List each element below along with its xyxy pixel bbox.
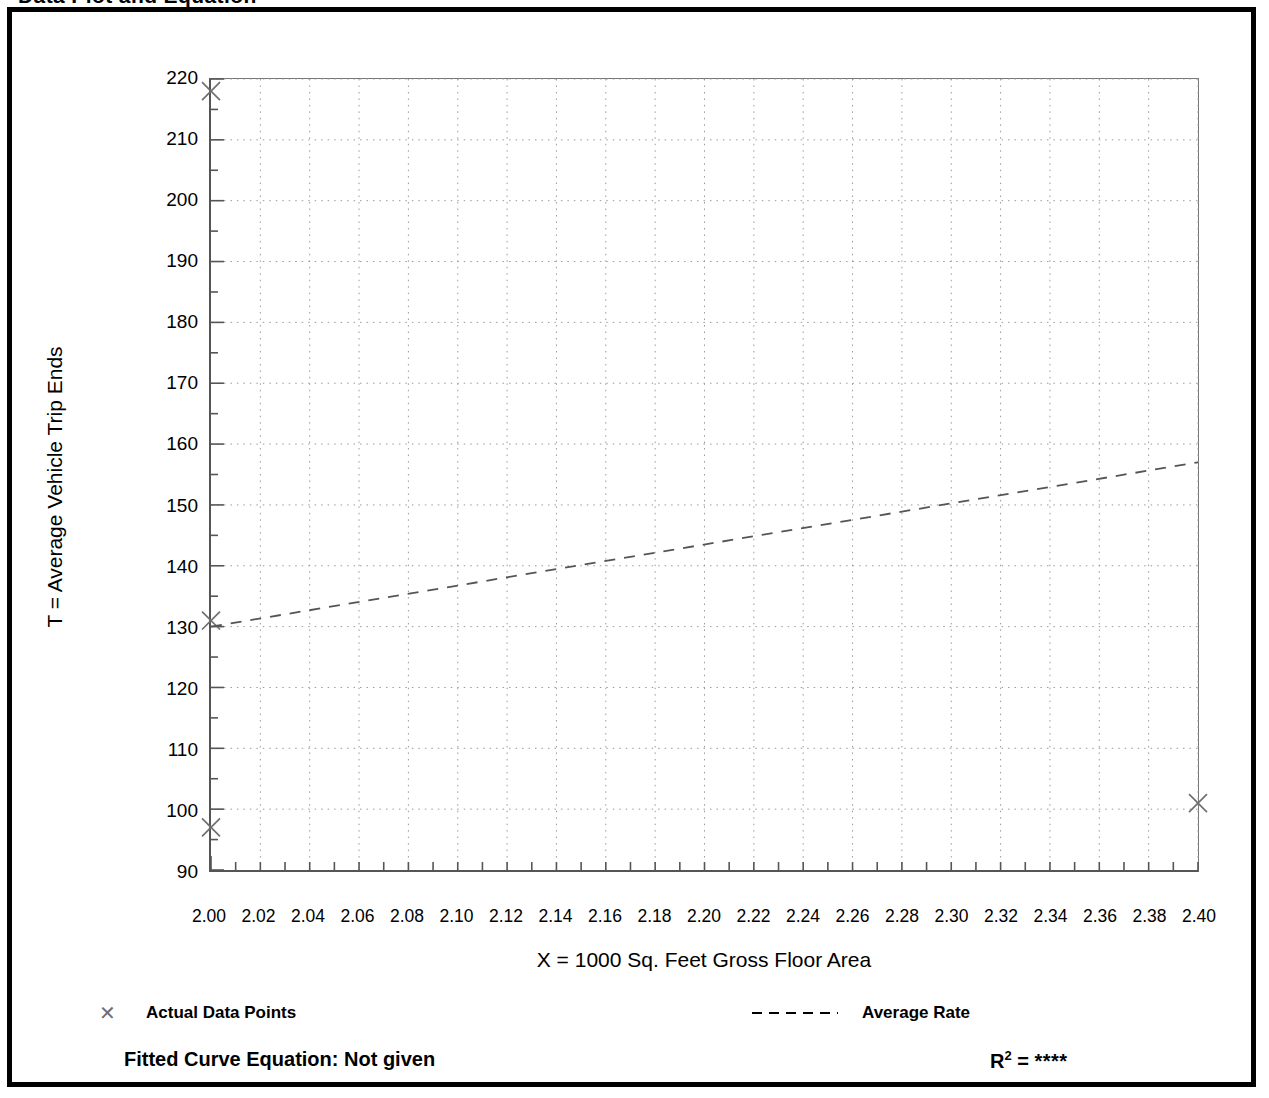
fitted-curve-equation: Fitted Curve Equation: Not given: [124, 1048, 435, 1071]
x-axis-tick-label: 2.16: [588, 906, 622, 927]
plot-area: [209, 78, 1199, 872]
equation-row: Fitted Curve Equation: Not given R2 = **…: [12, 1048, 1251, 1084]
y-axis-tick-label: 160: [166, 433, 198, 455]
legend-label-actual-data-points: Actual Data Points: [146, 1003, 296, 1023]
x-axis-tick-label: 2.36: [1083, 906, 1117, 927]
y-axis-tick-label: 190: [166, 250, 198, 272]
y-axis-tick-label: 220: [166, 67, 198, 89]
dashed-line-icon: [752, 1012, 838, 1014]
x-axis-tick-label: 2.20: [687, 906, 721, 927]
x-axis-tick-label: 2.00: [192, 906, 226, 927]
x-axis-tick-label: 2.38: [1132, 906, 1166, 927]
legend-label-average-rate: Average Rate: [862, 1003, 970, 1023]
legend-item-actual-data-points: ✕ Actual Data Points: [90, 996, 296, 1030]
x-axis-tick-label: 2.02: [241, 906, 275, 927]
x-axis-tick-label: 2.06: [340, 906, 374, 927]
y-axis-tick-label: 170: [166, 372, 198, 394]
y-axis-tick-labels: 9010011012013014015016017018019020021022…: [132, 78, 198, 872]
r-squared-stars: ****: [1034, 1050, 1067, 1072]
y-axis-tick-label: 150: [166, 495, 198, 517]
r-squared-equals: =: [1012, 1050, 1035, 1072]
y-axis-tick-label: 210: [166, 128, 198, 150]
legend: ✕ Actual Data Points Average Rate: [12, 996, 1251, 1030]
x-axis-tick-label: 2.12: [489, 906, 523, 927]
y-axis-tick-label: 120: [166, 678, 198, 700]
y-axis-tick-label: 110: [168, 739, 198, 761]
x-axis-tick-label: 2.30: [934, 906, 968, 927]
x-axis-tick-label: 2.32: [984, 906, 1018, 927]
figure-frame: T = Average Vehicle Trip Ends 9010011012…: [7, 7, 1256, 1087]
x-axis-tick-labels: 2.002.022.042.062.082.102.122.142.162.18…: [209, 906, 1199, 932]
x-axis-tick-label: 2.24: [786, 906, 820, 927]
x-axis-tick-label: 2.34: [1033, 906, 1067, 927]
x-axis-tick-label: 2.10: [439, 906, 473, 927]
y-axis-tick-label: 130: [166, 617, 198, 639]
x-axis-tick-label: 2.14: [538, 906, 572, 927]
data-layer: [211, 79, 1198, 870]
x-axis-tick-label: 2.26: [835, 906, 869, 927]
x-axis-tick-label: 2.28: [885, 906, 919, 927]
r-squared-value: R2 = ****: [990, 1048, 1068, 1073]
r-squared-symbol: R: [990, 1050, 1004, 1072]
y-axis-tick-label: 200: [166, 189, 198, 211]
y-axis-title: T = Average Vehicle Trip Ends: [43, 167, 67, 807]
y-axis-tick-label: 140: [166, 556, 198, 578]
r-squared-exponent: 2: [1004, 1048, 1011, 1063]
x-axis-tick-label: 2.08: [390, 906, 424, 927]
x-marker-icon: ✕: [90, 1003, 124, 1023]
y-axis-tick-label: 180: [166, 311, 198, 333]
x-axis-tick-label: 2.40: [1182, 906, 1216, 927]
legend-item-average-rate: Average Rate: [752, 996, 970, 1030]
x-axis-title: X = 1000 Sq. Feet Gross Floor Area: [209, 948, 1199, 972]
x-axis-tick-label: 2.22: [736, 906, 770, 927]
y-axis-tick-label: 90: [177, 861, 198, 883]
y-axis-tick-label: 100: [166, 800, 198, 822]
x-axis-tick-label: 2.18: [637, 906, 671, 927]
x-axis-tick-label: 2.04: [291, 906, 325, 927]
